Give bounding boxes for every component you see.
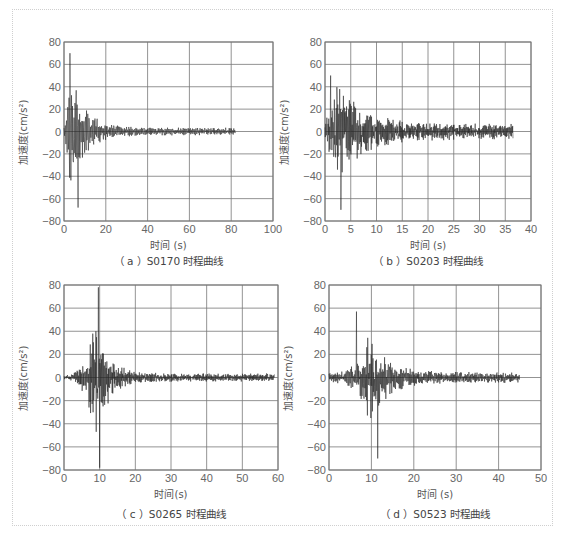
x-tick-label: 40 (141, 223, 153, 235)
y-tick-label: 80 (310, 36, 322, 48)
acceleration-series (329, 312, 520, 459)
y-tick-label: 20 (310, 103, 322, 115)
x-tick-label: 25 (448, 223, 460, 235)
y-tick-label: 80 (49, 36, 61, 48)
caption-a: （ a ）S0170 时程曲线 (64, 253, 273, 268)
x-tick-label: 40 (492, 472, 504, 484)
x-tick-label: 10 (365, 472, 377, 484)
y-tick-label: 80 (49, 279, 61, 291)
x-tick-label: 100 (264, 223, 282, 235)
x-tick-label: 15 (396, 223, 408, 235)
x-tick-label: 5 (348, 223, 354, 235)
chart-panel-a: 020406080100806040200−20−40−60−80 加速度(cm… (64, 42, 273, 221)
plot-area-c: 0102030405060806040200−20−40−60−80 (64, 285, 278, 470)
y-tick-label: 80 (314, 279, 326, 291)
x-tick-label: 40 (525, 223, 537, 235)
y-tick-label: 0 (316, 126, 322, 138)
y-axis-label-c: 加速度(cm/s²) (15, 323, 30, 433)
y-tick-label: −80 (303, 215, 322, 227)
chart-panel-b: 0510152025303540806040200−20−40−60−80 加速… (325, 42, 531, 221)
x-tick-label: 60 (183, 223, 195, 235)
caption-b: （ b ）S0203 时程曲线 (325, 253, 531, 268)
y-tick-label: −40 (303, 170, 322, 182)
chart-panel-c: 0102030405060806040200−20−40−60−80 加速度(c… (64, 285, 278, 470)
x-tick-label: 0 (61, 223, 67, 235)
y-tick-label: −80 (42, 215, 61, 227)
x-tick-label: 30 (473, 223, 485, 235)
y-tick-label: −20 (307, 395, 326, 407)
acceleration-series (64, 287, 274, 467)
x-tick-label: 10 (94, 472, 106, 484)
x-tick-label: 0 (61, 472, 67, 484)
y-tick-label: 40 (49, 81, 61, 93)
x-tick-label: 20 (422, 223, 434, 235)
x-tick-label: 20 (408, 472, 420, 484)
y-tick-label: 60 (310, 58, 322, 70)
y-tick-label: −20 (42, 395, 61, 407)
y-tick-label: 40 (49, 325, 61, 337)
y-tick-label: 20 (314, 348, 326, 360)
y-axis-label-d: 加速度(cm/s²) (280, 323, 295, 433)
acceleration-series (325, 76, 513, 210)
y-axis-label-a: 加速度(cm/s²) (15, 77, 30, 187)
y-tick-label: −20 (42, 148, 61, 160)
chart-panel-d: 01020304050806040200−20−40−60−80 加速度(cm/… (329, 285, 541, 470)
y-tick-label: −60 (303, 193, 322, 205)
x-tick-label: 30 (165, 472, 177, 484)
caption-d: （ d ）S0523 时程曲线 (329, 506, 541, 521)
x-tick-label: 30 (450, 472, 462, 484)
x-tick-label: 20 (100, 223, 112, 235)
y-tick-label: −60 (42, 441, 61, 453)
y-axis-label-b: 加速度(cm/s²) (276, 77, 291, 187)
x-tick-label: 0 (326, 472, 332, 484)
acceleration-series (64, 53, 235, 207)
x-tick-label: 20 (129, 472, 141, 484)
y-tick-label: −60 (42, 193, 61, 205)
x-tick-label: 50 (236, 472, 248, 484)
plot-area-b: 0510152025303540806040200−20−40−60−80 (325, 42, 531, 221)
y-tick-label: −40 (42, 418, 61, 430)
y-tick-label: 0 (320, 372, 326, 384)
y-tick-label: 0 (55, 126, 61, 138)
x-tick-label: 10 (370, 223, 382, 235)
y-tick-label: 40 (310, 81, 322, 93)
y-tick-label: 60 (49, 302, 61, 314)
x-axis-label-b: 时间 (s) (325, 237, 531, 252)
x-axis-label-c: 时间(s) (64, 486, 278, 501)
y-tick-label: −40 (307, 418, 326, 430)
x-tick-label: 60 (272, 472, 284, 484)
plot-area-d: 01020304050806040200−20−40−60−80 (329, 285, 541, 470)
y-tick-label: −80 (42, 464, 61, 476)
y-tick-label: −20 (303, 148, 322, 160)
y-tick-label: 40 (314, 325, 326, 337)
y-tick-label: 20 (49, 103, 61, 115)
x-tick-label: 40 (201, 472, 213, 484)
y-tick-label: 60 (314, 302, 326, 314)
x-tick-label: 80 (225, 223, 237, 235)
y-tick-label: −40 (42, 170, 61, 182)
y-tick-label: 0 (55, 372, 61, 384)
y-tick-label: 60 (49, 58, 61, 70)
y-tick-label: −60 (307, 441, 326, 453)
x-tick-label: 35 (499, 223, 511, 235)
plot-area-a: 020406080100806040200−20−40−60−80 (64, 42, 273, 221)
x-axis-label-d: 时间 (s) (329, 486, 541, 501)
y-tick-label: −80 (307, 464, 326, 476)
y-tick-label: 20 (49, 348, 61, 360)
x-axis-label-a: 时间 (s) (64, 237, 273, 252)
caption-c: （ c ）S0265 时程曲线 (64, 506, 278, 521)
x-tick-label: 50 (535, 472, 547, 484)
x-tick-label: 0 (322, 223, 328, 235)
